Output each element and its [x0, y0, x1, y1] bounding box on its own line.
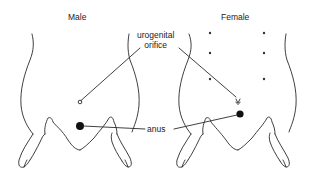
female-title: Female: [221, 13, 249, 22]
leader-line-urogenital-female: [179, 48, 236, 97]
leader-line-urogenital-male: [81, 48, 140, 101]
urogenital-label-line2: orifice: [137, 40, 174, 50]
nipple-dot: [209, 32, 211, 34]
nipple-dot: [209, 78, 211, 80]
leader-line-anus-male: [83, 126, 145, 129]
urogenital-orifice-label: urogenital orifice: [137, 30, 174, 50]
nipple-dot: [263, 78, 265, 80]
nipple-dot: [263, 52, 265, 54]
nipple-dot: [263, 32, 265, 34]
sexing-diagram: Male Female urogenital orifice anus: [0, 0, 319, 172]
diagram-drawing: [0, 0, 319, 172]
urogenital-label-line1: urogenital: [137, 30, 174, 40]
male-title: Male: [68, 13, 86, 22]
anus-label: anus: [147, 125, 165, 134]
female-anus: [236, 110, 243, 117]
nipple-dot: [209, 52, 211, 54]
female-nipples: [209, 32, 265, 80]
